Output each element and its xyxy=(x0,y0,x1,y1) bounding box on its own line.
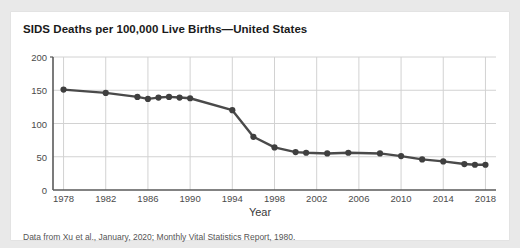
chart-card: SIDS Deaths per 100,000 Live Births—Unit… xyxy=(11,12,509,240)
x-axis-tick: 2010 xyxy=(390,193,411,204)
y-axis-tick: 50 xyxy=(36,151,47,162)
x-axis-tick: 2006 xyxy=(348,193,369,204)
page-background: SIDS Deaths per 100,000 Live Births—Unit… xyxy=(0,0,520,248)
y-axis-tick: 100 xyxy=(31,118,47,129)
x-axis-tick: 1994 xyxy=(222,193,243,204)
chart-caption: Data from Xu et al., January, 2020; Mont… xyxy=(23,232,295,242)
x-axis-tick: 1982 xyxy=(95,193,116,204)
x-axis-tick: 2002 xyxy=(306,193,327,204)
x-axis-tick: 2018 xyxy=(475,193,496,204)
x-axis-tick: 1990 xyxy=(180,193,201,204)
x-axis-tick-labels: 1978198219861990199419982002200620102014… xyxy=(11,193,509,207)
x-axis-tick: 1986 xyxy=(137,193,158,204)
y-axis-tick: 150 xyxy=(31,85,47,96)
x-axis-tick: 1998 xyxy=(264,193,285,204)
y-axis-tick: 200 xyxy=(31,52,47,63)
x-axis-title: Year xyxy=(11,206,509,218)
x-axis-tick: 2014 xyxy=(433,193,454,204)
x-axis-tick: 1978 xyxy=(53,193,74,204)
